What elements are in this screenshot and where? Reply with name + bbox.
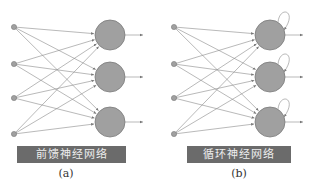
input-node [11, 61, 16, 66]
input-node [11, 95, 16, 100]
input-node [171, 24, 176, 29]
output-neuron [255, 62, 285, 92]
input-node [11, 131, 16, 136]
input-node [171, 95, 176, 100]
input-node [171, 61, 176, 66]
output-neuron [255, 107, 285, 137]
caption-a: (a) [46, 167, 86, 180]
output-neuron [255, 20, 285, 50]
caption-b: (b) [219, 167, 259, 180]
output-neuron [95, 62, 125, 92]
input-node [11, 24, 16, 29]
feedforward-label: 前馈神经网络 [17, 146, 126, 163]
recurrent-network [171, 12, 303, 137]
output-neuron [95, 20, 125, 50]
recurrent-label: 循环神经网络 [187, 146, 291, 163]
input-node [171, 131, 176, 136]
output-neuron [95, 107, 125, 137]
feedforward-network [11, 20, 143, 137]
